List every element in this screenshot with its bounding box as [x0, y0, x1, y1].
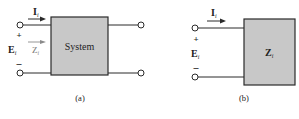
- two-port-diagrams: System Ii + – Ei Zi (a): [0, 0, 299, 119]
- current-arrowhead-icon: [40, 17, 46, 22]
- voltage-label: Ei: [191, 48, 200, 60]
- caption-b: (b): [239, 93, 249, 103]
- impedance-arrowhead-icon: [40, 40, 46, 44]
- voltage-label: Ei: [8, 44, 17, 56]
- system-box-label: System: [65, 41, 95, 52]
- minus-sign: –: [193, 62, 200, 73]
- plus-sign: +: [193, 34, 198, 44]
- output-bottom-terminal: [138, 70, 144, 76]
- input-top-terminal: [17, 22, 23, 28]
- input-top-terminal: [192, 25, 198, 31]
- minus-sign: –: [16, 58, 23, 69]
- caption-a: (a): [75, 93, 85, 103]
- diagram-a: System Ii + – Ei Zi (a): [8, 6, 144, 103]
- plus-sign: +: [16, 30, 21, 40]
- current-label: Ii: [33, 6, 39, 18]
- current-arrowhead-icon: [220, 19, 226, 24]
- current-label: Ii: [211, 7, 217, 19]
- diagram-b: Zi Ii + – Ei (b): [191, 7, 295, 103]
- input-bottom-terminal: [17, 70, 23, 76]
- impedance-label: Zi: [32, 45, 40, 56]
- output-top-terminal: [138, 22, 144, 28]
- input-bottom-terminal: [192, 74, 198, 80]
